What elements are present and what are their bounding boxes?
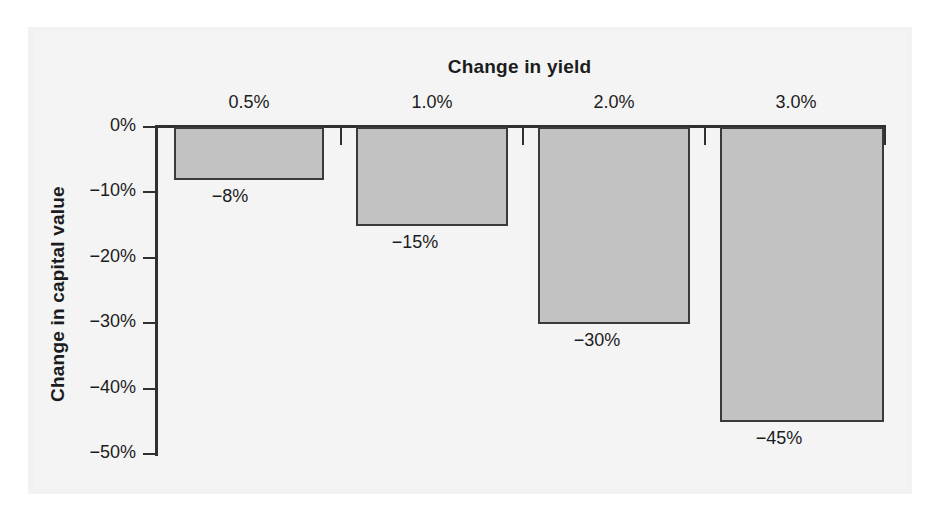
bar-0[interactable] xyxy=(174,127,324,180)
bar-3[interactable] xyxy=(720,127,884,422)
x-axis-label-3: 3.0% xyxy=(726,92,866,113)
y-axis-line xyxy=(155,127,158,456)
y-tick-label: −30% xyxy=(36,311,136,332)
chart-title: Change in yield xyxy=(155,56,884,78)
y-tick-mark xyxy=(143,453,156,455)
chart-screenshot: Change in yield Change in capital value … xyxy=(0,0,939,510)
bar-1[interactable] xyxy=(356,127,508,226)
bar-value-label-2: −30% xyxy=(537,330,657,351)
x-tick-mark-2 xyxy=(522,128,524,145)
bar-value-label-1: −15% xyxy=(355,232,475,253)
y-tick-label: −40% xyxy=(36,377,136,398)
bar-chart: Change in yield Change in capital value … xyxy=(0,0,939,510)
x-axis-label-1: 1.0% xyxy=(362,92,502,113)
y-tick-mark xyxy=(143,191,156,193)
y-tick-label: −50% xyxy=(36,442,136,463)
y-tick-label: 0% xyxy=(36,115,136,136)
x-axis-label-0: 0.5% xyxy=(179,92,319,113)
y-tick-mark xyxy=(143,257,156,259)
bar-2[interactable] xyxy=(538,127,690,324)
bar-value-label-0: −8% xyxy=(175,186,285,207)
y-tick-mark xyxy=(143,388,156,390)
x-tick-mark-4 xyxy=(884,128,886,145)
y-tick-label: −10% xyxy=(36,180,136,201)
y-tick-label: −20% xyxy=(36,246,136,267)
x-axis-label-2: 2.0% xyxy=(544,92,684,113)
x-tick-mark-1 xyxy=(340,128,342,145)
bar-value-label-3: −45% xyxy=(719,428,839,449)
y-tick-mark xyxy=(143,322,156,324)
y-tick-mark xyxy=(143,126,156,128)
x-tick-mark-3 xyxy=(704,128,706,145)
